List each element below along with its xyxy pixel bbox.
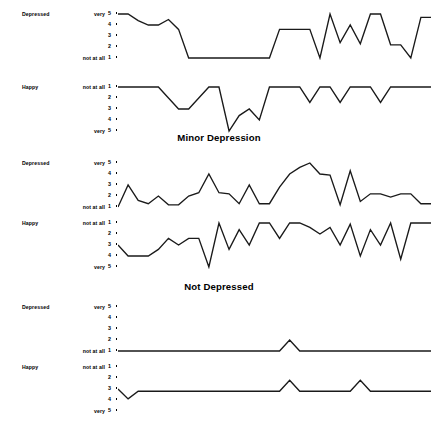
y-axis-tick: 1 (108, 364, 117, 369)
y-axis-tick: 2 (108, 375, 117, 380)
y-axis-tick: 3 (108, 386, 117, 391)
mood-timeseries-figure: Minor Depression Not Depressed Depressed… (0, 0, 438, 446)
y-axis-tick: 3 (108, 182, 117, 187)
y-axis-tick: 5 (108, 408, 117, 413)
axis-anchor-high: not at all (55, 221, 105, 226)
y-axis-tick: 2 (108, 337, 117, 342)
y-axis-tick: 4 (108, 315, 117, 320)
axis-anchor-low: very (55, 265, 105, 270)
y-axis-tick: 4 (108, 22, 117, 27)
panel-plot-area (118, 12, 431, 60)
trace-line (118, 380, 431, 399)
trace-line (118, 340, 431, 351)
panel-plot-area (118, 365, 431, 413)
axis-anchor-low: not at all (55, 349, 105, 354)
y-axis-tick: 4 (108, 171, 117, 176)
y-axis-tick: 5 (108, 160, 117, 165)
y-axis-tick: 5 (108, 304, 117, 309)
y-axis-tick: 2 (108, 95, 117, 100)
panel-mood-label: Depressed (22, 161, 49, 166)
y-axis-tick: 1 (108, 348, 117, 353)
y-axis-tick: 5 (108, 11, 117, 16)
trace-line (118, 14, 431, 58)
axis-anchor-low: not at all (55, 56, 105, 61)
axis-anchor-high: not at all (55, 85, 105, 90)
y-axis-tick: 1 (108, 220, 117, 225)
y-axis-tick: 3 (108, 106, 117, 111)
panel-mood-label: Happy (22, 365, 38, 370)
y-axis-tick: 1 (108, 204, 117, 209)
axis-anchor-low: very (55, 129, 105, 134)
y-axis-tick: 2 (108, 231, 117, 236)
panel-plot-area (118, 161, 431, 209)
panel-plot-area (118, 221, 431, 269)
y-axis-tick: 2 (108, 193, 117, 198)
y-axis-tick: 1 (108, 84, 117, 89)
y-axis-tick: 3 (108, 242, 117, 247)
section-caption-not-depressed: Not Depressed (0, 281, 438, 292)
panel-plot-area (118, 305, 431, 353)
y-axis-tick: 2 (108, 44, 117, 49)
axis-anchor-high: not at all (55, 365, 105, 370)
panel-plot-area (118, 85, 431, 133)
y-axis-tick: 5 (108, 128, 117, 133)
y-axis-tick: 3 (108, 326, 117, 331)
axis-anchor-low: not at all (55, 205, 105, 210)
trace-line (118, 87, 431, 131)
trace-line (118, 223, 431, 267)
y-axis-tick: 3 (108, 33, 117, 38)
panel-mood-label: Happy (22, 221, 38, 226)
axis-anchor-high: very (55, 12, 105, 17)
trace-line (118, 163, 431, 207)
y-axis-tick: 1 (108, 55, 117, 60)
y-axis-tick: 4 (108, 397, 117, 402)
y-axis-tick: 4 (108, 253, 117, 258)
axis-anchor-high: very (55, 161, 105, 166)
y-axis-tick: 4 (108, 117, 117, 122)
panel-mood-label: Depressed (22, 305, 49, 310)
panel-mood-label: Happy (22, 85, 38, 90)
y-axis-tick: 5 (108, 264, 117, 269)
axis-anchor-low: very (55, 409, 105, 414)
axis-anchor-high: very (55, 305, 105, 310)
panel-mood-label: Depressed (22, 12, 49, 17)
